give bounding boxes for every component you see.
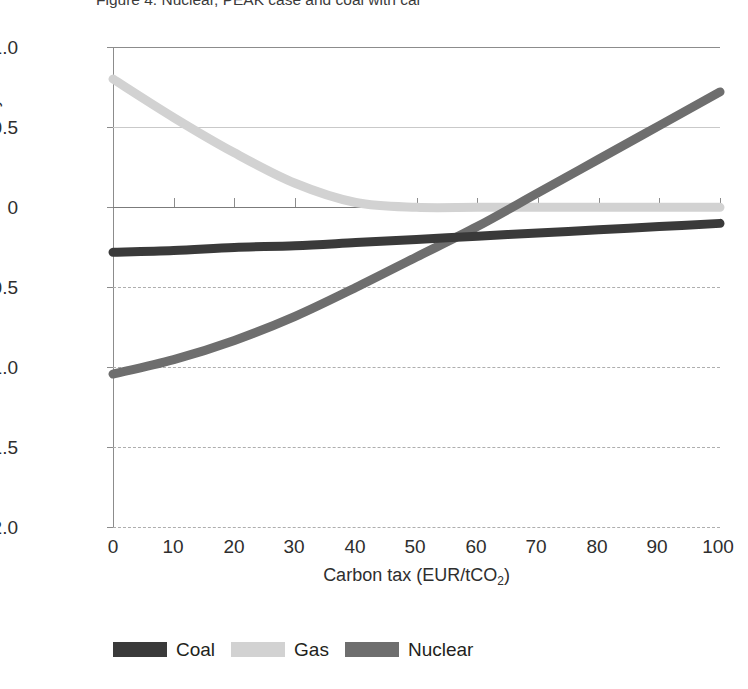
y-tick-label-1: 1.0 [0,38,18,57]
legend-item-gas[interactable]: Gas [231,640,329,659]
legend-swatch-coal-icon [113,642,167,657]
x-tick-label-100: 100 [688,537,748,556]
x-tick-label-90: 90 [627,537,687,556]
x-tick-label-10: 10 [143,537,203,556]
legend-swatch-gas-icon [231,642,285,657]
figure-container: Figure 4. Nuclear, PEAK case and coal wi… [0,0,748,689]
legend-label-nuclear: Nuclear [408,640,473,659]
x-axis-title-subscript: 2 [497,574,504,588]
x-tick-label-40: 40 [325,537,385,556]
x-axis-title-main: Carbon tax (EUR/tCO [323,565,497,585]
y-tick-label-2: 0.5 [0,118,18,137]
y-tick-label-3: 0 [0,198,18,217]
plot-area [113,47,720,528]
x-tick-label-30: 30 [264,537,324,556]
y-tick-label-6: -1.5 [0,438,18,457]
legend-item-coal[interactable]: Coal [113,640,215,659]
x-tick-label-0: 0 [83,537,143,556]
y-axis-title: Proftability index [0,0,2,180]
legend-label-gas: Gas [294,640,329,659]
legend: Coal Gas Nuclear [113,634,553,664]
x-axis-title: Carbon tax (EUR/tCO2) [113,564,720,588]
y-tick-label-7: -2.0 [0,518,18,537]
x-tick-label-20: 20 [204,537,264,556]
y-tick-label-5: -1.0 [0,358,18,377]
figure-title: Figure 4. Nuclear, PEAK case and coal wi… [96,0,748,9]
x-tick-label-60: 60 [446,537,506,556]
x-tick-label-50: 50 [385,537,445,556]
x-tick-label-70: 70 [506,537,566,556]
data-curves [113,47,720,528]
x-tick-label-80: 80 [567,537,627,556]
legend-item-nuclear[interactable]: Nuclear [345,640,473,659]
legend-swatch-nuclear-icon [345,642,399,657]
legend-label-coal: Coal [176,640,215,659]
y-tick-label-4: -0.5 [0,278,18,297]
series-line-coal [113,223,720,252]
x-axis-title-tail: ) [504,565,510,585]
